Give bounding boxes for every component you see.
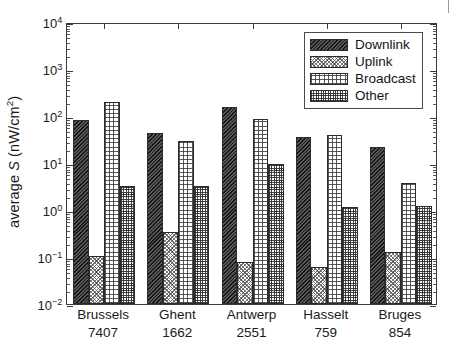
y-axis-minor-tick: [67, 264, 70, 265]
y-axis-minor-tick: [67, 266, 70, 267]
y-axis-minor-tick: [433, 85, 436, 86]
x-axis-category-count: 759: [289, 323, 363, 342]
x-axis-category-count: 2551: [214, 323, 288, 342]
y-axis-tick-label: 100: [28, 204, 62, 218]
y-axis-minor-tick: [67, 125, 70, 126]
y-axis-tick-label: 101: [28, 157, 62, 171]
y-axis-minor-tick: [433, 34, 436, 35]
y-axis-minor-tick: [433, 143, 436, 144]
y-axis-minor-tick: [67, 90, 70, 91]
legend-item-downlink: Downlink: [310, 37, 416, 53]
y-axis-tick-label: 103: [28, 63, 62, 77]
legend-label-downlink: Downlink: [355, 38, 410, 52]
x-axis-top-tick: [104, 24, 105, 29]
y-axis-minor-tick: [433, 73, 436, 74]
y-axis-minor-tick: [67, 184, 70, 185]
y-axis-tick-label: 10−1: [28, 251, 62, 265]
y-axis-minor-tick: [67, 143, 70, 144]
y-axis-major-tick: [67, 165, 73, 166]
x-axis-top-tick: [178, 24, 179, 29]
y-axis-minor-tick: [433, 217, 436, 218]
bar-uplink-hasselt: [311, 267, 327, 304]
y-axis-label-unit-exponent: 2: [4, 101, 15, 107]
y-axis-minor-tick: [433, 184, 436, 185]
y-axis-minor-tick: [433, 237, 436, 238]
y-axis-minor-tick: [67, 128, 70, 129]
y-axis-minor-tick: [433, 125, 436, 126]
y-axis-tick-label: 102: [28, 110, 62, 124]
y-axis-minor-tick: [433, 49, 436, 50]
x-axis-category-hasselt: Hasselt759: [289, 306, 363, 342]
bar-chart-figure: average S (nW/cm2) 10−210−11001011021031…: [0, 0, 456, 352]
x-axis-category-count: 7407: [66, 323, 140, 342]
y-axis-minor-tick: [67, 273, 70, 274]
y-axis-major-tick: [67, 212, 73, 213]
bar-other-antwerp: [268, 164, 284, 304]
y-axis-minor-tick: [67, 120, 70, 121]
y-axis-minor-tick: [433, 231, 436, 232]
y-axis-label-unit-open: (nW/cm: [6, 106, 22, 161]
y-axis-major-tick: [67, 71, 73, 72]
y-axis-minor-tick: [67, 34, 70, 35]
y-axis-minor-tick: [67, 214, 70, 215]
y-axis-minor-tick: [67, 57, 70, 58]
y-axis-major-tick: [430, 71, 436, 72]
y-axis-minor-tick: [433, 120, 436, 121]
y-axis-minor-tick: [67, 172, 70, 173]
x-axis-category-name: Antwerp: [227, 307, 277, 322]
y-axis-minor-tick: [433, 29, 436, 30]
y-axis-minor-tick: [67, 226, 70, 227]
bar-other-ghent: [194, 186, 210, 304]
y-axis-minor-tick: [67, 245, 70, 246]
y-axis-minor-tick: [67, 222, 70, 223]
y-axis-minor-tick: [433, 167, 436, 168]
y-axis-minor-tick: [67, 179, 70, 180]
y-axis-minor-tick: [433, 128, 436, 129]
y-axis-minor-tick: [67, 81, 70, 82]
x-axis-category-brussels: Brussels7407: [66, 306, 140, 342]
y-axis-minor-tick: [433, 137, 436, 138]
y-axis-tick-label: 104: [28, 16, 62, 30]
y-axis-minor-tick: [433, 175, 436, 176]
y-axis-minor-tick: [67, 151, 70, 152]
legend-swatch-broadcast-icon: [310, 73, 348, 85]
x-axis-category-antwerp: Antwerp2551: [214, 306, 288, 342]
y-axis-minor-tick: [67, 104, 70, 105]
legend-item-uplink: Uplink: [310, 54, 416, 70]
bar-downlink-ghent: [147, 133, 163, 304]
y-axis-minor-tick: [433, 76, 436, 77]
y-axis-minor-tick: [433, 264, 436, 265]
x-axis-category-name: Brussels: [77, 307, 129, 322]
y-axis-minor-tick: [433, 284, 436, 285]
legend-label-other: Other: [355, 89, 389, 103]
y-axis-minor-tick: [433, 190, 436, 191]
y-axis-minor-tick: [67, 123, 70, 124]
y-axis-minor-tick: [433, 26, 436, 27]
y-axis-minor-tick: [433, 292, 436, 293]
y-axis-minor-tick: [67, 167, 70, 168]
x-axis-top-tick: [253, 24, 254, 29]
y-axis-major-tick: [430, 24, 436, 25]
y-axis-minor-tick: [433, 90, 436, 91]
y-axis-minor-tick: [67, 175, 70, 176]
y-axis-major-tick: [430, 118, 436, 119]
y-axis-minor-tick: [433, 38, 436, 39]
bar-broadcast-bruges: [401, 183, 417, 304]
y-axis-minor-tick: [67, 292, 70, 293]
y-axis-minor-tick: [433, 269, 436, 270]
y-axis-label-prefix: average: [6, 171, 22, 228]
legend-label-uplink: Uplink: [355, 55, 393, 69]
y-axis-minor-tick: [67, 269, 70, 270]
bar-broadcast-hasselt: [327, 135, 343, 304]
y-axis-minor-tick: [433, 172, 436, 173]
y-axis-minor-tick: [433, 151, 436, 152]
bar-broadcast-ghent: [178, 141, 194, 304]
bar-downlink-antwerp: [222, 107, 238, 304]
x-axis-category-bruges: Bruges854: [363, 306, 437, 342]
y-axis-minor-tick: [433, 266, 436, 267]
y-axis-minor-tick: [433, 278, 436, 279]
legend-item-other: Other: [310, 88, 416, 104]
page-edge-mark: [448, 0, 449, 13]
y-axis-minor-tick: [433, 123, 436, 124]
x-axis-category-name: Bruges: [379, 307, 422, 322]
